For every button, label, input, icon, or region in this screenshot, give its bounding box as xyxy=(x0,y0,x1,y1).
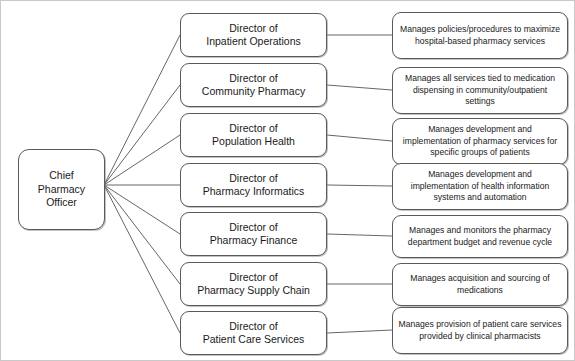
org-chart-diagram: Chief Pharmacy Officer Director of Inpat… xyxy=(0,0,575,361)
node-label: Director of Community Pharmacy xyxy=(181,72,326,99)
node-director-inpatient-operations[interactable]: Director of Inpatient Operations xyxy=(180,13,327,57)
description-text: Manages provision of patient care servic… xyxy=(393,319,567,342)
node-label: Director of Pharmacy Finance xyxy=(181,221,326,248)
description-inpatient-operations[interactable]: Manages policies/procedures to maximize … xyxy=(392,12,568,59)
node-director-pharmacy-informatics[interactable]: Director of Pharmacy Informatics xyxy=(180,163,327,207)
description-text: Manages policies/procedures to maximize … xyxy=(393,24,567,47)
node-label: Director of Patient Care Services xyxy=(181,320,326,347)
connector-mid-desc-4 xyxy=(327,185,392,186)
node-director-pharmacy-supply-chain[interactable]: Director of Pharmacy Supply Chain xyxy=(180,262,327,306)
description-text: Manages all services tied to medication … xyxy=(393,73,567,108)
node-director-patient-care-services[interactable]: Director of Patient Care Services xyxy=(180,311,327,355)
connector-mid-desc-5 xyxy=(327,234,392,236)
connector-root-7 xyxy=(104,185,180,333)
description-text: Manages development and implementation o… xyxy=(393,169,567,204)
connector-root-3 xyxy=(104,135,180,185)
node-director-community-pharmacy[interactable]: Director of Community Pharmacy xyxy=(180,63,327,107)
connector-mid-desc-2 xyxy=(327,85,392,90)
connector-root-6 xyxy=(104,185,180,284)
node-label: Director of Pharmacy Supply Chain xyxy=(181,271,326,298)
description-text: Manages and monitors the pharmacy depart… xyxy=(393,225,567,248)
description-text: Manages development and implementation o… xyxy=(393,124,567,159)
node-label: Director of Inpatient Operations xyxy=(181,22,326,49)
node-director-pharmacy-finance[interactable]: Director of Pharmacy Finance xyxy=(180,212,327,256)
description-pharmacy-finance[interactable]: Manages and monitors the pharmacy depart… xyxy=(392,215,568,258)
description-patient-care-services[interactable]: Manages provision of patient care servic… xyxy=(392,307,568,354)
connector-root-2 xyxy=(104,85,180,185)
description-population-health[interactable]: Manages development and implementation o… xyxy=(392,118,568,165)
description-text: Manages acquisition and sourcing of medi… xyxy=(393,273,567,296)
description-pharmacy-supply-chain[interactable]: Manages acquisition and sourcing of medi… xyxy=(392,263,568,306)
description-community-pharmacy[interactable]: Manages all services tied to medication … xyxy=(392,67,568,114)
connector-root-1 xyxy=(104,35,180,185)
connector-mid-desc-3 xyxy=(327,135,392,141)
node-director-population-health[interactable]: Director of Population Health xyxy=(180,113,327,157)
connector-root-5 xyxy=(104,185,180,234)
description-pharmacy-informatics[interactable]: Manages development and implementation o… xyxy=(392,163,568,210)
node-label: Director of Pharmacy Informatics xyxy=(181,172,326,199)
node-label: Chief Pharmacy Officer xyxy=(19,169,104,209)
node-chief-pharmacy-officer[interactable]: Chief Pharmacy Officer xyxy=(18,149,105,230)
connector-mid-desc-7 xyxy=(327,330,392,333)
node-label: Director of Population Health xyxy=(181,122,326,149)
